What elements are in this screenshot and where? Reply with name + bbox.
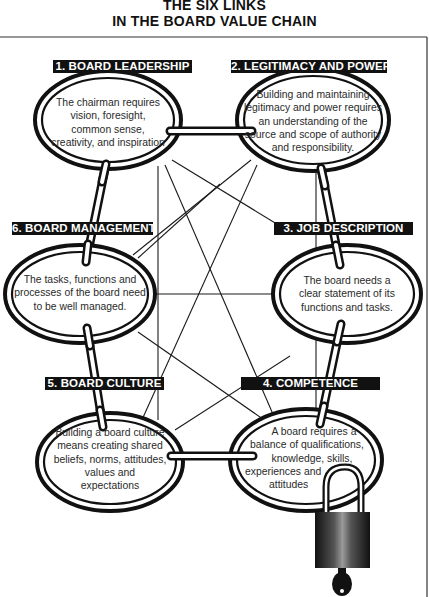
link-label-board-leadership: 1. BOARD LEADERSHIP (53, 60, 192, 73)
link-label-board-management: 6. BOARD MANAGEMENT (12, 222, 153, 235)
link-label-competence: 4. COMPETENCE (241, 377, 380, 390)
link-description-job-description: The board needs a clear statement of its… (277, 274, 417, 314)
link-description-board-management: The tasks, functions and processes of th… (10, 273, 150, 313)
link-description-competence: A board requires a balance of qualificat… (257, 425, 357, 491)
key-icon (332, 568, 352, 596)
link-description-board-leadership: The chairman requires vision, foresight,… (38, 96, 178, 149)
link-label-legitimacy-and-power: 2. LEGITIMACY AND POWER (231, 60, 387, 73)
link-label-board-culture: 5. BOARD CULTURE (45, 377, 164, 390)
link-description-legitimacy-and-power: Building and maintaining legitimacy and … (243, 88, 383, 154)
link-label-job-description: 3. JOB DESCRIPTION (274, 222, 413, 235)
link-description-board-culture: Building a board culture means creating … (40, 426, 180, 492)
